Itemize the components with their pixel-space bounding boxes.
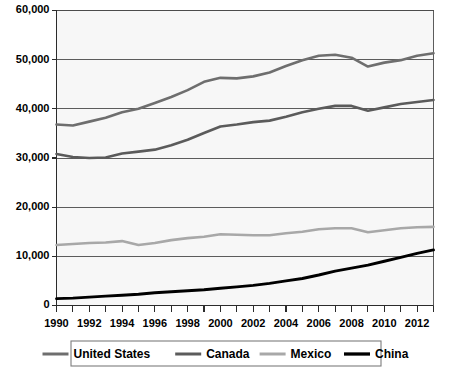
legend-label-canada: Canada: [206, 347, 250, 361]
x-tick-label: 1990: [44, 317, 68, 329]
x-tick-label: 2010: [372, 317, 396, 329]
legend-label-mexico: Mexico: [291, 347, 332, 361]
x-tick-label: 2002: [241, 317, 265, 329]
x-tick-label: 1994: [110, 317, 135, 329]
y-tick-label: 40,000: [16, 102, 50, 114]
x-tick-label: 1998: [175, 317, 199, 329]
x-tick-label: 2008: [339, 317, 363, 329]
chart-legend: United StatesCanadaMexicoChina: [43, 341, 409, 366]
y-axis-tick-labels: 010,00020,00030,00040,00050,00060,000: [16, 3, 50, 310]
y-tick-label: 10,000: [16, 249, 50, 261]
x-tick-label: 2000: [208, 317, 232, 329]
x-tick-label: 1996: [143, 317, 167, 329]
y-tick-label: 20,000: [16, 200, 50, 212]
y-tick-label: 50,000: [16, 53, 50, 65]
x-tick-label: 1992: [77, 317, 101, 329]
legend-label-united-states: United States: [74, 347, 151, 361]
legend-label-china: China: [375, 347, 409, 361]
line-chart: 010,00020,00030,00040,00050,00060,000 19…: [0, 0, 454, 374]
y-tick-label: 60,000: [16, 3, 50, 15]
x-axis-tick-labels: 1990199219941996199820002002200420062008…: [44, 317, 429, 329]
y-tick-label: 0: [43, 298, 49, 310]
chart-canvas: 010,00020,00030,00040,00050,00060,000 19…: [0, 0, 454, 374]
x-tick-label: 2006: [307, 317, 331, 329]
x-axis-tickmarks: [57, 306, 434, 312]
x-tick-label: 2012: [405, 317, 429, 329]
x-tick-label: 2004: [274, 317, 299, 329]
y-tick-label: 30,000: [16, 151, 50, 163]
